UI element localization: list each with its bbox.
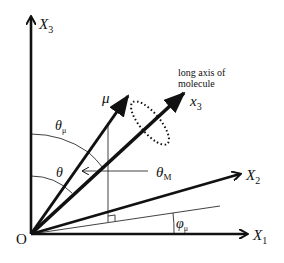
right-angle-marker: [108, 215, 115, 221]
label-x3-vector: x3: [189, 93, 202, 112]
orientation-diagram: X3 X1 X2 O μ x3 long axis of molecule θμ…: [0, 0, 284, 263]
label-x2-axis: X2: [245, 167, 260, 186]
label-phi-mu: φμ: [176, 216, 188, 233]
label-theta-mu: θμ: [55, 118, 66, 135]
label-x3-axis: X3: [38, 16, 53, 35]
vector-mu: [31, 96, 128, 234]
arc-phi-mu: [173, 213, 174, 234]
label-long-axis-line1: long axis of: [178, 67, 226, 78]
arc-theta-mu: [31, 134, 88, 152]
label-origin: O: [16, 231, 27, 247]
label-theta: θ: [56, 165, 63, 180]
label-mu: μ: [101, 90, 110, 106]
label-long-axis-line2: molecule: [178, 78, 215, 89]
label-x1-axis: X1: [252, 227, 267, 246]
label-theta-m: θM: [156, 164, 171, 182]
arc-theta-m: [88, 152, 103, 168]
